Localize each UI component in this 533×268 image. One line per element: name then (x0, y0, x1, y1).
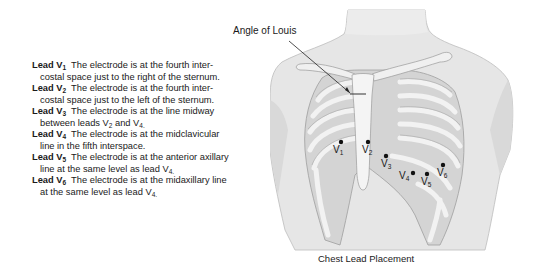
lead-v3-description: Lead V3 The electrode is at the line mid… (32, 106, 272, 129)
lead-text-line2: costal space just to the left of the ste… (32, 95, 272, 107)
lead-subscript: 1 (62, 64, 66, 71)
lead-v6-name: Lead V6 (32, 175, 66, 185)
lead-text: at the same level as lead V (40, 187, 152, 197)
electrode-v1-label: V1 (333, 144, 343, 155)
electrode-label-text: V (437, 167, 444, 178)
lead-text-line1: The electrode is at the fourth inter- (71, 83, 213, 93)
lead-subscript: 4. (152, 191, 157, 198)
electrode-label-text: V (381, 158, 388, 169)
neck (345, 10, 428, 35)
lead-v3-name: Lead V3 (32, 106, 66, 116)
electrode-label-subscript: 5 (428, 181, 432, 188)
lead-v6-description: Lead V6 The electrode is at the midaxill… (32, 175, 272, 198)
electrode-label-text: V (421, 176, 428, 187)
lead-v1-name: Lead V1 (32, 60, 66, 70)
lead-text-line2: at the same level as lead V4. (32, 187, 272, 199)
lead-text-line1: The electrode is at the midaxillary line (71, 175, 227, 185)
figure-caption: Chest Lead Placement (318, 253, 414, 264)
lead-v2-name: Lead V2 (32, 83, 66, 93)
lead-v5-description: Lead V5 The electrode is at the anterior… (32, 152, 272, 175)
lead-subscript: 3 (62, 110, 66, 117)
lead-text-line1: The electrode is at the fourth inter- (71, 60, 213, 70)
lead-text: and V (112, 118, 139, 128)
lead-name: Lead V (32, 175, 62, 185)
electrode-v4-label: V4 (399, 170, 409, 181)
lead-name: Lead V (32, 60, 62, 70)
lead-v4-description: Lead V4 The electrode is at the midclavi… (32, 129, 272, 152)
lead-subscript: 6 (62, 179, 66, 186)
lead-text: line at the same level as lead V (40, 164, 169, 174)
lead-text: between leads V (40, 118, 109, 128)
lead-text-line2: between leads V2 and V4. (32, 118, 272, 130)
lead-name: Lead V (32, 83, 62, 93)
lead-text-line2: line at the same level as lead V4. (32, 164, 272, 176)
lead-v4-name: Lead V4 (32, 129, 66, 139)
lead-subscript: 4 (62, 133, 66, 140)
lead-v1-description: Lead V1 The electrode is at the fourth i… (32, 60, 272, 83)
lead-name: Lead V (32, 106, 62, 116)
lead-text-line2: costal space just to the right of the st… (32, 72, 272, 84)
lead-descriptions: Lead V1 The electrode is at the fourth i… (32, 60, 272, 198)
lead-text-line1: The electrode is at the line midway (71, 106, 214, 116)
angle-of-louis-label: Angle of Louis (233, 25, 296, 36)
electrode-v3-label: V3 (381, 158, 391, 169)
electrode-v6-label: V6 (437, 167, 447, 178)
electrode-v5-label: V5 (421, 176, 431, 187)
lead-name: Lead V (32, 129, 62, 139)
lead-v2-description: Lead V2 The electrode is at the fourth i… (32, 83, 272, 106)
lead-subscript: 4. (169, 168, 174, 175)
lead-text-line1: The electrode is at the anterior axillar… (71, 152, 229, 162)
electrode-label-subscript: 1 (340, 149, 344, 156)
electrode-v2-label: V2 (362, 144, 372, 155)
electrode-label-text: V (399, 170, 406, 181)
lead-v5-name: Lead V5 (32, 152, 66, 162)
electrode-v4-dot (411, 171, 415, 175)
electrode-label-text: V (333, 144, 340, 155)
electrode-label-text: V (362, 144, 369, 155)
electrode-label-subscript: 4 (406, 175, 410, 182)
chest-illustration (270, 0, 533, 268)
electrode-label-subscript: 6 (444, 172, 448, 179)
lead-subscript: 4. (139, 122, 144, 129)
lead-name: Lead V (32, 152, 62, 162)
lead-text-line2: line in the fifth interspace. (32, 141, 272, 153)
lead-subscript: 5 (62, 156, 66, 163)
lead-subscript: 2 (62, 87, 66, 94)
electrode-label-subscript: 3 (388, 163, 392, 170)
lead-text-line1: The electrode is at the midclavicular (71, 129, 219, 139)
electrode-label-subscript: 2 (369, 149, 373, 156)
